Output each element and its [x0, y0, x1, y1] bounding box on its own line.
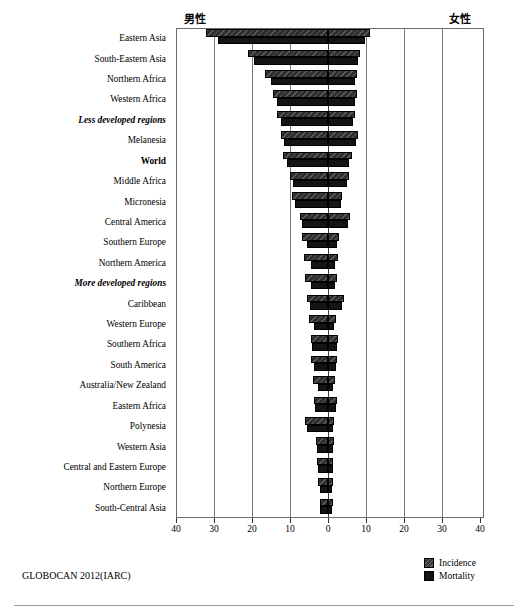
category-label: Middle Africa [114, 176, 166, 186]
bar-mortality-female [328, 343, 337, 351]
legend-label: Mortality [439, 571, 475, 581]
bar-mortality-male [311, 261, 328, 269]
bar-incidence-female [328, 233, 339, 241]
legend-item: Mortality [424, 571, 476, 581]
category-label: Western Asia [117, 442, 166, 452]
axis-tick-label: 0 [326, 524, 331, 534]
bar-incidence-female [328, 417, 334, 425]
bar-mortality-female [328, 465, 333, 473]
bar-mortality-male [287, 159, 328, 167]
axis-tick [252, 518, 253, 523]
bar-mortality-female [328, 261, 335, 269]
category-axis-labels: Eastern AsiaSouth-Eastern AsiaNorthern A… [0, 28, 172, 518]
bar-incidence-male [292, 192, 328, 200]
axis-tick [290, 518, 291, 523]
bar-mortality-male [311, 282, 328, 290]
bar-mortality-female [328, 425, 333, 433]
bar-mortality-male [254, 57, 328, 65]
category-label: Western Europe [107, 319, 166, 329]
bottom-divider [14, 605, 514, 606]
bar-incidence-female [328, 315, 336, 323]
bar-incidence-male [311, 335, 328, 343]
bar-incidence-male [283, 152, 328, 160]
bar-mortality-male [277, 98, 328, 106]
bar-incidence-male [265, 70, 328, 78]
bar-mortality-female [328, 98, 355, 106]
bar-mortality-female [328, 363, 336, 371]
category-label: Caribbean [128, 299, 166, 309]
bar-mortality-male [310, 302, 328, 310]
bar-incidence-male [290, 172, 328, 180]
chart-legend: IncidenceMortality [424, 558, 476, 584]
bar-incidence-female [328, 499, 333, 507]
bar-mortality-male [307, 425, 328, 433]
bar-incidence-male [309, 315, 328, 323]
category-label: Micronesia [124, 197, 166, 207]
bar-incidence-female [328, 29, 370, 37]
bar-incidence-female [328, 437, 334, 445]
category-label: South-Eastern Asia [94, 54, 166, 64]
axis-tick-label: 30 [209, 524, 219, 534]
bar-incidence-female [328, 295, 344, 303]
category-label: Polynesia [130, 421, 166, 431]
axis-tick-label: 20 [247, 524, 257, 534]
bar-incidence-female [328, 213, 350, 221]
bar-mortality-male [295, 200, 328, 208]
chart-container: 男性 女性 Eastern AsiaSouth-Eastern AsiaNort… [0, 0, 528, 615]
bar-mortality-female [328, 506, 332, 514]
bar-incidence-male [305, 274, 328, 282]
bar-mortality-male [271, 78, 328, 86]
bar-mortality-female [328, 404, 336, 412]
bar-incidence-female [328, 70, 357, 78]
axis-tick [366, 518, 367, 523]
bar-incidence-female [328, 254, 338, 262]
bar-incidence-male [318, 478, 328, 486]
bar-mortality-male [318, 384, 328, 392]
bar-incidence-male [307, 295, 328, 303]
category-label: South-Central Asia [95, 503, 166, 513]
bar-incidence-female [328, 397, 337, 405]
category-label: Central America [105, 217, 166, 227]
bar-incidence-male [317, 458, 328, 466]
bar-mortality-male [320, 506, 328, 514]
axis-tick [480, 518, 481, 523]
bar-mortality-male [317, 445, 328, 453]
bars-layer [176, 28, 484, 518]
bar-incidence-female [328, 458, 333, 466]
category-label: Eastern Africa [113, 401, 166, 411]
bar-mortality-male [314, 323, 328, 331]
bar-mortality-female [328, 302, 342, 310]
bar-incidence-female [328, 376, 335, 384]
bar-incidence-male [300, 213, 329, 221]
bar-incidence-male [273, 90, 328, 98]
bar-mortality-male [218, 37, 328, 45]
bar-mortality-male [315, 404, 328, 412]
legend-item: Incidence [424, 558, 476, 568]
bar-incidence-male [305, 417, 328, 425]
bar-mortality-male [312, 343, 328, 351]
bar-incidence-female [328, 152, 352, 160]
bar-mortality-female [328, 445, 333, 453]
bar-mortality-male [314, 363, 328, 371]
source-note: GLOBOCAN 2012(IARC) [22, 570, 131, 581]
bar-incidence-female [328, 90, 357, 98]
bar-mortality-female [328, 241, 337, 249]
bar-mortality-female [328, 180, 347, 188]
bar-mortality-female [328, 118, 353, 126]
bar-mortality-male [307, 241, 328, 249]
legend-swatch-icon [424, 558, 434, 568]
category-label: Northern America [99, 258, 166, 268]
bar-mortality-male [318, 465, 328, 473]
bar-mortality-male [293, 180, 328, 188]
bar-incidence-male [313, 376, 328, 384]
bar-incidence-male [277, 111, 328, 119]
value-axis: 40302010010203040 [176, 518, 484, 544]
axis-tick [214, 518, 215, 523]
axis-tick [328, 518, 329, 523]
bar-incidence-female [328, 274, 337, 282]
bar-mortality-male [302, 220, 328, 228]
bar-incidence-male [320, 499, 328, 507]
category-label: South America [110, 360, 166, 370]
category-label: Southern Europe [103, 237, 166, 247]
category-label: Eastern Asia [119, 33, 166, 43]
